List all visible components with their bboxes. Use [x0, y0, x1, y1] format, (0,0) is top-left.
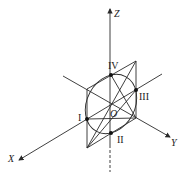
x-label: X [7, 153, 15, 164]
point-i [85, 117, 89, 121]
origin-label: O [110, 108, 117, 119]
label-ii: II [117, 134, 124, 145]
axonometric-diagram: Z X Y O IV III I II [0, 0, 187, 178]
label-iii: III [139, 91, 149, 102]
point-iii [134, 88, 138, 92]
z-label: Z [114, 8, 120, 19]
y-label: Y [171, 137, 178, 148]
label-i: I [78, 112, 81, 123]
label-iv: IV [108, 60, 119, 71]
point-ii [109, 131, 113, 135]
point-iv [109, 73, 113, 77]
